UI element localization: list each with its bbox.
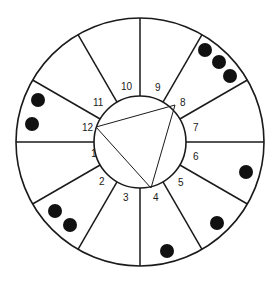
divider-line [78,182,117,250]
dot-section-8 [198,43,212,57]
dot-section-12 [25,117,39,131]
dot-section-8 [212,55,226,69]
dot-section-6 [239,165,253,179]
dot-section-8 [223,69,237,83]
section-label-5: 5 [178,177,184,188]
section-label-1: 1 [91,148,97,159]
divider-line [180,165,248,204]
section-label-12: 12 [82,122,94,133]
section-label-11: 11 [93,97,104,108]
dot-section-4 [160,244,174,258]
divider-line [163,35,202,103]
inner-circle [94,96,186,188]
dot-section-12 [31,93,45,107]
circle-diagram: 123456789101112 [0,0,275,285]
divider-line [163,182,202,250]
divider-line [180,80,248,119]
divider-line [33,165,101,204]
divider-line [78,35,117,103]
section-label-10: 10 [121,81,133,92]
section-label-2: 2 [99,176,105,187]
section-label-4: 4 [153,192,159,203]
section-label-3: 3 [123,192,129,203]
section-label-9: 9 [155,82,161,93]
section-label-6: 6 [193,151,199,162]
dot-section-5 [210,216,224,230]
section-label-7: 7 [193,122,199,133]
dot-section-2 [48,204,62,218]
section-label-8: 8 [180,97,186,108]
dot-section-2 [63,218,77,232]
